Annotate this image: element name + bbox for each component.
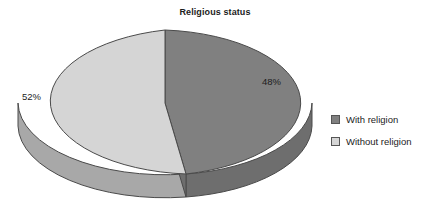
pie-data-label-without-religion: 52% [22, 91, 42, 102]
legend-item-without-religion: Without religion [331, 130, 430, 152]
legend-swatch-with-religion [331, 115, 340, 124]
pie-chart-figure: Religious status 48% 52% With religion [0, 0, 430, 216]
legend-swatch-without-religion [331, 137, 340, 146]
pie-svg: 48% 52% [0, 20, 326, 200]
chart-legend: With religion Without religion [331, 108, 430, 152]
pie-plot-area: 48% 52% [0, 20, 326, 200]
pie-data-label-with-religion: 48% [262, 76, 282, 87]
legend-label-without-religion: Without religion [346, 136, 411, 147]
chart-title: Religious status [0, 6, 430, 18]
legend-label-with-religion: With religion [346, 114, 398, 125]
legend-item-with-religion: With religion [331, 108, 430, 130]
